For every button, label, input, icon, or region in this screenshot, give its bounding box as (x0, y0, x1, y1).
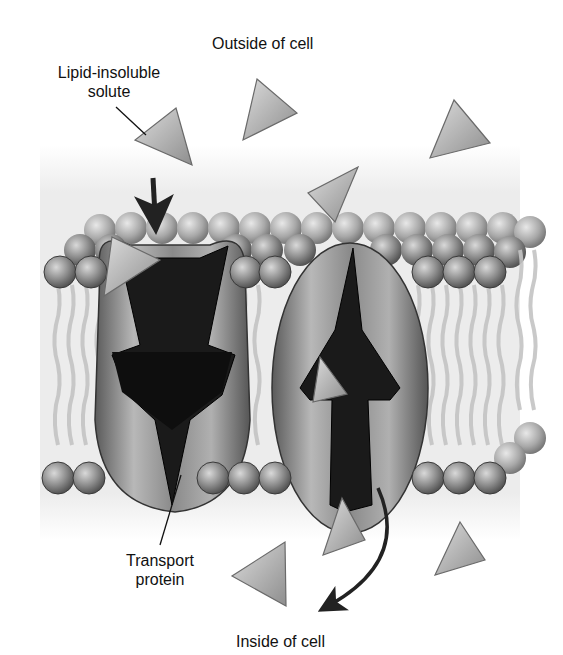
label-lipid-insoluble-solute: Lipid-insoluble solute (48, 63, 170, 101)
label-protein-line1: Transport (110, 551, 210, 570)
label-transport-protein: Transport protein (110, 551, 210, 589)
label-inside-of-cell: Inside of cell (236, 632, 325, 651)
label-solute-line2: solute (48, 82, 170, 101)
label-outside-of-cell: Outside of cell (212, 34, 313, 53)
solute-inside-2 (232, 542, 286, 606)
arrow-into-channel (153, 178, 155, 215)
label-protein-line2: protein (110, 570, 210, 589)
solute-outside-2 (243, 79, 297, 140)
transport-protein-right (272, 243, 428, 533)
solute-leader-line (116, 107, 146, 135)
label-solute-line1: Lipid-insoluble (48, 63, 170, 82)
